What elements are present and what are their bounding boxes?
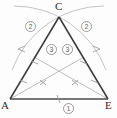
arc-centered-at-E	[14, 6, 106, 70]
step-badge-base: 1	[63, 103, 74, 114]
step-badge-cevian-left: 3	[46, 44, 57, 55]
step-badge-left-arc: 2	[25, 21, 36, 32]
vertex-label-a: A	[1, 100, 9, 111]
triangle-sides	[10, 17, 108, 99]
arc-centered-at-A	[12, 6, 104, 70]
vertex-label-c: C	[55, 1, 62, 12]
construction-canvas	[0, 0, 117, 118]
cevian-segments	[10, 57, 108, 99]
geometry-diagram: A C E 2 2 3 3 1	[0, 0, 117, 118]
cevian-A-to-CE	[10, 57, 84, 99]
vertex-label-e: E	[105, 100, 112, 111]
tick-marks	[20, 61, 98, 103]
step-badge-cevian-right: 3	[62, 44, 73, 55]
step-badge-right-arc: 2	[81, 21, 92, 32]
cevian-E-to-AC	[34, 57, 108, 99]
arc-arrowheads	[18, 46, 100, 52]
construction-arcs	[12, 6, 106, 70]
